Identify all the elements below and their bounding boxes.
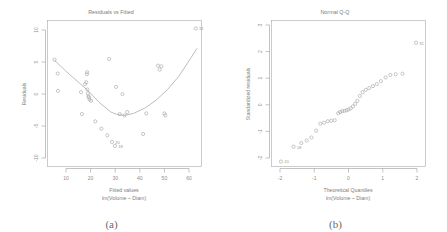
data-point bbox=[315, 129, 318, 132]
data-point bbox=[354, 102, 357, 105]
data-point bbox=[310, 136, 313, 139]
panel-a-title: Residuals vs Fitted bbox=[88, 9, 134, 15]
data-point bbox=[364, 88, 367, 91]
panel-b-ytick-0: 0 bbox=[257, 103, 263, 106]
data-point bbox=[322, 121, 325, 124]
panel-residuals-vs-fitted: Residuals vs Fitted 10 5 0 -5 -10 Residu… bbox=[0, 0, 223, 232]
panel-b-xtick-neg2: -2 bbox=[278, 175, 283, 181]
point-label: 18 bbox=[297, 145, 302, 150]
point-label: 20 bbox=[115, 140, 120, 145]
data-point bbox=[121, 93, 124, 96]
data-point bbox=[100, 127, 103, 130]
data-point bbox=[375, 83, 378, 86]
data-point bbox=[333, 119, 336, 122]
panel-a-data-points bbox=[53, 27, 198, 148]
data-point bbox=[94, 120, 97, 123]
data-point bbox=[163, 112, 166, 115]
data-point bbox=[292, 145, 295, 148]
data-point bbox=[384, 76, 387, 79]
panel-a-ylabel: Residuals bbox=[21, 82, 27, 105]
normal-qq-plot: Normal Q-Q 3 2 1 0 -1 -2 Standardized re… bbox=[224, 0, 447, 205]
data-point bbox=[86, 71, 89, 74]
panel-a-ytick-neg5: -5 bbox=[33, 124, 39, 129]
point-label: 31 bbox=[199, 26, 204, 31]
data-point bbox=[330, 119, 333, 122]
panel-a-ytick-neg10: -10 bbox=[33, 154, 39, 161]
residuals-vs-fitted-plot: Residuals vs Fitted 10 5 0 -5 -10 Residu… bbox=[0, 0, 223, 205]
data-point bbox=[305, 139, 308, 142]
panel-a-ytick-0: 0 bbox=[33, 92, 39, 95]
data-point bbox=[356, 99, 359, 102]
point-label: 20 bbox=[284, 159, 289, 164]
panel-b-xtick-2: 2 bbox=[416, 175, 419, 181]
data-point bbox=[414, 41, 417, 44]
panel-a-xtick-60: 60 bbox=[186, 175, 192, 181]
data-point bbox=[379, 80, 382, 83]
data-point bbox=[361, 91, 364, 94]
panel-a-loess-curve bbox=[55, 48, 197, 115]
data-point bbox=[164, 114, 167, 117]
panel-b-caption: (b) bbox=[224, 218, 447, 230]
panel-normal-qq: Normal Q-Q 3 2 1 0 -1 -2 Standardized re… bbox=[224, 0, 447, 232]
data-point bbox=[345, 109, 348, 112]
data-point bbox=[394, 73, 397, 76]
panel-b-plot-frame bbox=[272, 21, 426, 167]
data-point bbox=[56, 72, 59, 75]
data-point bbox=[110, 140, 113, 143]
data-point bbox=[194, 27, 197, 30]
data-point bbox=[319, 122, 322, 125]
panel-b-x-axis: -2 -1 0 1 2 bbox=[278, 169, 419, 182]
data-point bbox=[56, 89, 59, 92]
panel-a-ytick-10: 10 bbox=[33, 27, 39, 33]
data-point bbox=[343, 109, 346, 112]
panel-a-xtick-40: 40 bbox=[137, 175, 143, 181]
panel-b-ytick-3: 3 bbox=[257, 23, 263, 26]
panel-a-caption: (a) bbox=[0, 218, 223, 230]
data-point bbox=[279, 160, 282, 163]
loess-smoother-line bbox=[55, 48, 197, 115]
data-point bbox=[106, 134, 109, 137]
data-point bbox=[326, 120, 329, 123]
panel-a-plot-frame bbox=[48, 21, 202, 167]
panel-a-ytick-5: 5 bbox=[33, 60, 39, 63]
data-point bbox=[113, 144, 116, 147]
data-point bbox=[389, 73, 392, 76]
data-point bbox=[160, 65, 163, 68]
panel-b-ylabel: Standardized residuals bbox=[245, 67, 251, 120]
panel-a-xtick-30: 30 bbox=[112, 175, 118, 181]
figure-container: Residuals vs Fitted 10 5 0 -5 -10 Residu… bbox=[0, 0, 447, 232]
data-point bbox=[158, 68, 161, 71]
panel-b-ytick-2: 2 bbox=[257, 50, 263, 53]
panel-a-x-axis: 10 20 30 40 50 60 bbox=[63, 169, 192, 182]
panel-a-xtick-50: 50 bbox=[162, 175, 168, 181]
data-point bbox=[341, 110, 344, 113]
panel-a-point-labels: 311820 bbox=[115, 26, 204, 148]
panel-a-xlabel-line2: lm(Volume ~ Diam) bbox=[102, 195, 147, 201]
data-point bbox=[145, 112, 148, 115]
data-point bbox=[368, 86, 371, 89]
data-point bbox=[115, 85, 118, 88]
panel-b-title: Normal Q-Q bbox=[320, 9, 349, 15]
panel-b-y-axis: 3 2 1 0 -1 -2 bbox=[257, 23, 270, 160]
panel-b-ytick-neg1: -1 bbox=[257, 129, 263, 134]
data-point bbox=[108, 57, 111, 60]
panel-b-xlabel-line2: lm(Volume ~ Diam) bbox=[326, 195, 371, 201]
panel-a-xtick-20: 20 bbox=[88, 175, 94, 181]
panel-b-xlabel-line1: Theoretical Quantiles bbox=[323, 187, 372, 193]
data-point bbox=[358, 94, 361, 97]
data-point bbox=[79, 91, 82, 94]
data-point bbox=[141, 132, 144, 135]
data-point bbox=[156, 64, 159, 67]
panel-b-ytick-neg2: -2 bbox=[257, 156, 263, 161]
data-point bbox=[126, 110, 129, 113]
point-label: 31 bbox=[419, 41, 424, 46]
panel-a-y-axis: 10 5 0 -5 -10 bbox=[33, 27, 46, 162]
panel-b-xtick-0: 0 bbox=[347, 175, 350, 181]
data-point bbox=[371, 84, 374, 87]
panel-b-xtick-neg1: -1 bbox=[312, 175, 317, 181]
panel-b-xtick-1: 1 bbox=[381, 175, 384, 181]
data-point bbox=[401, 72, 404, 75]
panel-a-xtick-10: 10 bbox=[63, 175, 69, 181]
panel-a-xlabel-line1: Fitted values bbox=[109, 187, 139, 193]
data-point bbox=[80, 112, 83, 115]
